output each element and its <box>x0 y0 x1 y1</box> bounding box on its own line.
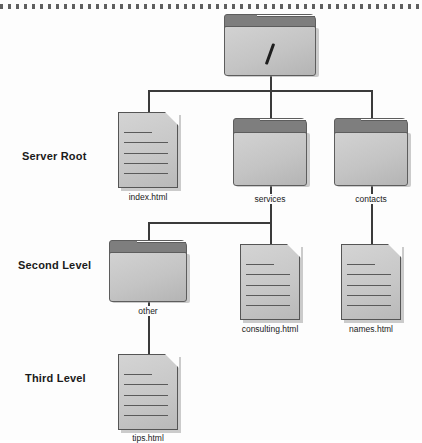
row-label-server-root: Server Root <box>22 150 87 162</box>
node-services-folder[interactable] <box>233 118 307 186</box>
node-other-folder[interactable] <box>109 240 187 302</box>
document-fold-icon <box>387 243 402 258</box>
connector-to-services <box>270 90 272 118</box>
document-fold-icon <box>164 111 179 126</box>
document-text-lines <box>347 264 391 307</box>
node-label-services: services <box>252 194 287 204</box>
document-text-lines <box>246 264 290 307</box>
document-fold-icon <box>164 353 179 368</box>
node-label-names-html: names.html <box>349 324 393 334</box>
node-names-html-document[interactable] <box>341 244 401 320</box>
node-index-html-document[interactable] <box>118 112 178 188</box>
node-contacts-folder[interactable] <box>334 118 408 186</box>
node-tips-html-document[interactable] <box>118 354 178 430</box>
folder-front <box>233 132 307 186</box>
connector-to-consulting-html <box>270 222 272 244</box>
node-label-index-html: index.html <box>129 192 168 202</box>
folder-front <box>334 132 408 186</box>
node-label-consulting-html: consulting.html <box>242 324 299 334</box>
document-text-lines <box>124 374 168 417</box>
folder-tab-notch <box>260 119 306 121</box>
node-label-other: other <box>136 306 159 316</box>
connector-level2-bus <box>148 222 272 224</box>
node-consulting-html-document[interactable] <box>240 244 300 320</box>
perforated-page-edge <box>0 4 422 9</box>
folder-tab-notch <box>137 241 186 243</box>
node-label-contacts: contacts <box>353 194 389 204</box>
connector-level1-bus <box>148 90 372 92</box>
node-label-tips-html: tips.html <box>132 433 164 443</box>
document-text-lines <box>124 132 168 175</box>
folder-tab-notch <box>361 119 407 121</box>
connector-to-contacts <box>371 90 373 118</box>
document-fold-icon <box>286 243 301 258</box>
connector-services-down <box>270 186 272 224</box>
node-root-folder[interactable] <box>224 14 316 76</box>
connector-to-index-html <box>148 90 150 112</box>
connector-to-other <box>148 222 150 240</box>
row-label-third-level: Third Level <box>25 372 86 384</box>
row-label-second-level: Second Level <box>18 259 91 271</box>
folder-front <box>109 252 187 302</box>
folder-tab-notch <box>257 15 315 17</box>
